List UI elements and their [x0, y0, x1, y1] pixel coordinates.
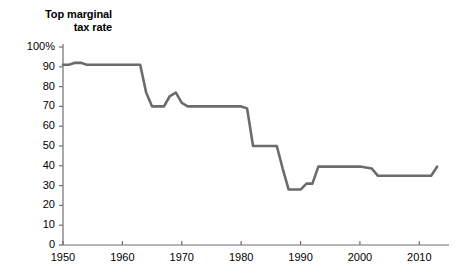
y-tick-label: 80 — [7, 80, 55, 92]
y-tick-label: 0 — [7, 238, 55, 250]
x-tick-label: 2010 — [399, 251, 439, 263]
y-tick-label: 10 — [7, 218, 55, 230]
y-tick-label: 60 — [7, 119, 55, 131]
x-tick-label: 1990 — [281, 251, 321, 263]
data-line-top-marginal-tax-rate — [63, 63, 437, 190]
y-tick-label: 100% — [7, 40, 55, 52]
y-tick-label: 50 — [7, 139, 55, 151]
top-marginal-tax-rate-chart: Top marginal tax rate 010203040506070809… — [0, 0, 475, 275]
x-axis — [63, 241, 449, 245]
y-tick-label: 70 — [7, 99, 55, 111]
y-axis — [59, 44, 63, 245]
y-tick-label: 40 — [7, 159, 55, 171]
y-tick-label: 30 — [7, 179, 55, 191]
x-tick-label: 1970 — [162, 251, 202, 263]
x-tick-label: 2000 — [340, 251, 380, 263]
x-tick-label: 1960 — [102, 251, 142, 263]
y-tick-label: 90 — [7, 60, 55, 72]
x-tick-label: 1950 — [43, 251, 83, 263]
x-tick-label: 1980 — [221, 251, 261, 263]
y-tick-label: 20 — [7, 198, 55, 210]
plot-area — [0, 0, 475, 275]
